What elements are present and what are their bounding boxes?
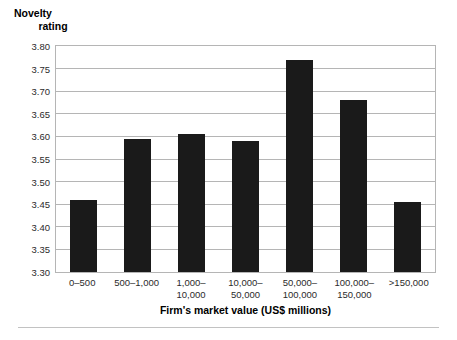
bar-slot (164, 46, 218, 272)
y-axis-tick-label: 3.35 (32, 244, 51, 255)
bar-slot (327, 46, 381, 272)
bar (286, 60, 313, 272)
y-axis-title-line-1: Novelty (14, 7, 92, 20)
bar-slot (273, 46, 327, 272)
y-axis-tick-label: 3.50 (32, 176, 51, 187)
bar (340, 100, 367, 272)
y-axis-tick-label: 3.60 (32, 131, 51, 142)
bar (178, 134, 205, 272)
y-axis-tick-label: 3.70 (32, 86, 51, 97)
bar-slot (381, 46, 435, 272)
y-axis-title: Novelty rating (14, 7, 92, 33)
x-axis-tick-label: 50,000–100,000 (273, 277, 327, 300)
y-axis-tick-label: 3.65 (32, 108, 51, 119)
bar-slot (56, 46, 110, 272)
y-axis-tick-label: 3.30 (32, 267, 51, 278)
y-axis-tick-label: 3.55 (32, 154, 51, 165)
x-axis-tick-label: 0–500 (55, 277, 109, 300)
x-axis-tick-label: >150,000 (382, 277, 436, 300)
y-axis-tick-label: 3.40 (32, 221, 51, 232)
x-axis-tick-label: 100,000–150,000 (327, 277, 381, 300)
y-axis-tick-label: 3.75 (32, 63, 51, 74)
plot-area: 3.303.353.403.453.503.553.603.653.703.75… (55, 45, 436, 273)
x-axis-tick-label: 1,000–10,000 (164, 277, 218, 300)
y-axis-tick-label: 3.45 (32, 199, 51, 210)
bar (232, 141, 259, 272)
y-axis-tick-label: 3.80 (32, 41, 51, 52)
x-axis-title: Firm's market value (US$ millions) (55, 304, 436, 316)
bar (394, 202, 421, 272)
chart-figure: Novelty rating 3.303.353.403.453.503.553… (0, 0, 457, 340)
bar (70, 200, 97, 272)
bar-slot (218, 46, 272, 272)
x-axis-tick-label: 500–1,000 (109, 277, 163, 300)
bar-series (56, 46, 435, 272)
x-axis-tick-labels: 0–500500–1,0001,000–10,00010,000–50,0005… (55, 277, 436, 300)
bottom-divider (18, 327, 439, 328)
y-axis-title-line-2: rating (14, 20, 92, 33)
x-axis-tick-label: 10,000–50,000 (218, 277, 272, 300)
bar (124, 139, 151, 272)
bar-slot (110, 46, 164, 272)
